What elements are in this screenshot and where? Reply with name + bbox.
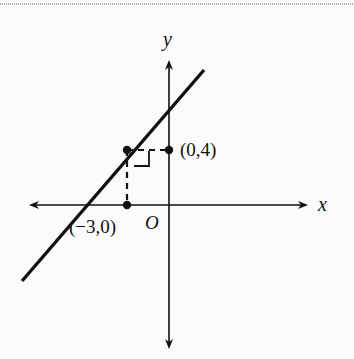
point-on-line: [123, 146, 131, 154]
right-angle-marker: [134, 151, 149, 166]
point-label-0-4: (0,4): [180, 139, 216, 161]
point-neg3-0: [123, 201, 131, 209]
coordinate-plane: y x O (0,4) (−3,0): [0, 0, 354, 359]
graph-line: [22, 70, 204, 281]
diagram-canvas: y x O (0,4) (−3,0): [0, 0, 354, 359]
y-axis-label: y: [161, 28, 172, 51]
x-axis-label: x: [317, 193, 327, 215]
origin-label: O: [145, 212, 159, 233]
point-label-neg3-0: (−3,0): [69, 216, 116, 238]
point-0-4: [165, 146, 173, 154]
